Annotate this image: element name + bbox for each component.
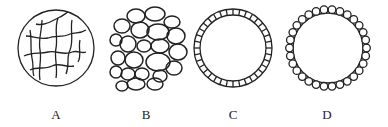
label-a: A [46, 107, 66, 123]
figure-a-fiber-network [18, 10, 94, 86]
figure-b-cell-cluster [110, 7, 187, 91]
figure-c-segmented-ring [194, 9, 272, 87]
label-b: B [136, 107, 156, 123]
figure-d-beaded-ring [286, 6, 371, 90]
label-c: C [223, 107, 243, 123]
label-d: D [317, 107, 337, 123]
